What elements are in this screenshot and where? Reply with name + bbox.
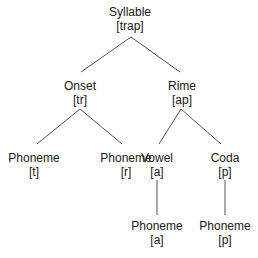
node-phoneme-p: Phoneme [p] [199, 219, 250, 247]
node-value: [t] [8, 165, 59, 179]
node-value: [a] [141, 165, 173, 179]
node-coda: Coda [p] [211, 151, 240, 179]
edge-rime-coda [181, 109, 221, 144]
node-label: Phoneme [131, 219, 182, 233]
node-value: [a] [131, 233, 182, 247]
node-vowel: Vowel [a] [141, 151, 173, 179]
node-value: [p] [211, 165, 240, 179]
edge-syllable-onset [81, 37, 131, 72]
node-rime: Rime [ap] [168, 79, 196, 107]
node-label: Onset [64, 79, 96, 93]
node-phoneme-a: Phoneme [a] [131, 219, 182, 247]
edge-syllable-rime [131, 37, 180, 72]
node-value: [p] [199, 233, 250, 247]
node-value: [tr] [64, 93, 96, 107]
node-value: [trap] [109, 19, 151, 33]
node-label: Syllable [109, 5, 151, 19]
node-label: Rime [168, 79, 196, 93]
node-label: Vowel [141, 151, 173, 165]
node-label: Coda [211, 151, 240, 165]
node-label: Phoneme [199, 219, 250, 233]
syllable-structure-tree: Syllable [trap] Onset [tr] Rime [ap] Pho… [0, 0, 258, 258]
node-syllable: Syllable [trap] [109, 5, 151, 33]
node-value: [ap] [168, 93, 196, 107]
edge-rime-vowel [159, 109, 181, 144]
node-phoneme-t: Phoneme [t] [8, 151, 59, 179]
edge-onset-phoneme-r [80, 109, 122, 144]
node-onset: Onset [tr] [64, 79, 96, 107]
node-label: Phoneme [8, 151, 59, 165]
edge-onset-phoneme-t [37, 109, 80, 144]
